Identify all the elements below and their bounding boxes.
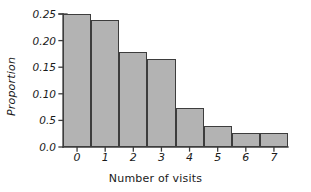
bar bbox=[119, 52, 147, 147]
x-axis-tick-labels: 01234567 bbox=[63, 152, 288, 172]
x-tick-label: 1 bbox=[94, 152, 116, 163]
bar bbox=[232, 133, 260, 147]
x-tick-label: 6 bbox=[235, 152, 257, 163]
bar bbox=[147, 59, 175, 147]
bar bbox=[204, 126, 232, 147]
x-tick-label: 7 bbox=[263, 152, 285, 163]
y-axis-title-text: Proportion bbox=[6, 56, 19, 115]
x-tick-label: 2 bbox=[122, 152, 144, 163]
y-tick-label: 0.10 bbox=[20, 89, 56, 100]
x-tick-label: 3 bbox=[150, 152, 172, 163]
y-tick-label: 0.0 bbox=[20, 142, 56, 153]
x-axis-title: Number of visits bbox=[0, 172, 311, 185]
x-tick-label: 5 bbox=[207, 152, 229, 163]
y-tick-label: 0.15 bbox=[20, 62, 56, 73]
bar bbox=[260, 133, 288, 147]
y-tick-label: 0.25 bbox=[20, 9, 56, 20]
plot-area bbox=[63, 14, 288, 147]
x-axis-title-text: Number of visits bbox=[109, 172, 202, 185]
y-tick-label: 0.20 bbox=[20, 35, 56, 46]
bar bbox=[63, 14, 91, 147]
x-tick-label: 4 bbox=[179, 152, 201, 163]
y-axis-title: Proportion bbox=[4, 38, 20, 134]
bar bbox=[91, 20, 119, 147]
bar bbox=[176, 108, 204, 147]
y-tick-label: 0.5 bbox=[20, 115, 56, 126]
x-tick-label: 0 bbox=[66, 152, 88, 163]
histogram-chart: Proportion 0.00.50.100.150.200.25 012345… bbox=[0, 0, 311, 192]
y-axis-tick-labels: 0.00.50.100.150.200.25 bbox=[20, 0, 56, 192]
